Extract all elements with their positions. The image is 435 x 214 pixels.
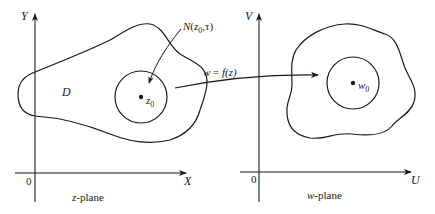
z-plane-x-label: X [183, 174, 192, 188]
z0-label: z0 [145, 94, 154, 109]
image-region-boundary [287, 24, 415, 138]
w-plane-u-label: U [411, 173, 421, 187]
diagram-canvas: Y X 0 D z0 N(z0,τ) z-plane w = f(z) V U … [0, 0, 435, 214]
w0-label: w0 [358, 79, 369, 94]
w-plane-origin-label: 0 [251, 173, 257, 185]
point-z0 [139, 95, 143, 99]
region-d-label: D [61, 85, 71, 99]
neighborhood-label: N(z0,τ) [182, 20, 213, 35]
z-plane-origin-label: 0 [26, 175, 32, 187]
region-d-boundary [18, 24, 207, 143]
w-plane-v-label: V [245, 9, 254, 23]
w-plane: V U 0 w0 w-plane [240, 9, 421, 202]
mapping: w = f(z) [175, 66, 318, 88]
z-plane-y-label: Y [21, 9, 29, 23]
mapping-label: w = f(z) [203, 66, 237, 79]
point-w0 [351, 81, 355, 85]
z-plane: Y X 0 D z0 N(z0,τ) z-plane [15, 9, 213, 203]
z-plane-caption: z-plane [71, 191, 104, 203]
mapping-arrow [175, 75, 318, 88]
w-plane-caption: w-plane [307, 189, 342, 201]
